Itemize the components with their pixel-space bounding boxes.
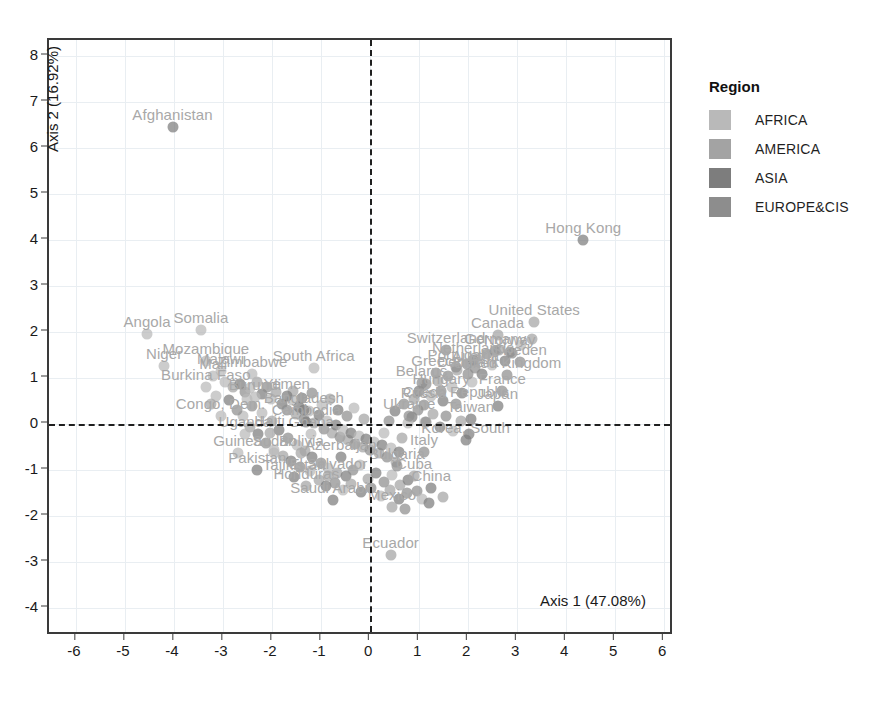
legend-item-label: AMERICA — [755, 141, 820, 157]
legend-items: AFRICAAMERICAASIAEUROPE&CIS — [709, 110, 874, 217]
y-axis-tick: 5 — [30, 184, 38, 201]
scatter-point — [529, 317, 540, 328]
x-tick-label: -1 — [312, 642, 325, 659]
scatter-point — [359, 413, 370, 424]
y-tick-label: 6 — [30, 138, 38, 155]
scatter-point — [378, 427, 389, 438]
scatter-point — [396, 433, 407, 444]
scatter-point — [142, 328, 153, 339]
x-axis-title: Axis 1 (47.08%) — [540, 592, 646, 609]
scatter-point — [167, 122, 178, 133]
point-label: Congo, Dem. — [176, 396, 265, 411]
x-tick-label: -3 — [214, 642, 227, 659]
y-axis-tick: 3 — [30, 276, 38, 293]
x-axis-tick: -4 — [165, 642, 178, 659]
point-label: Azerbaijan — [305, 437, 377, 452]
legend-swatch-icon — [709, 139, 731, 159]
gridline-vertical — [223, 40, 224, 632]
scatter-point — [426, 482, 437, 493]
x-axis-tick: 0 — [364, 642, 372, 659]
x-tick-label: 0 — [364, 642, 372, 659]
x-tick-label: 2 — [462, 642, 470, 659]
x-tick-label: 5 — [609, 642, 617, 659]
scatter-point — [387, 502, 398, 513]
legend-item-america[interactable]: AMERICA — [709, 139, 874, 159]
legend-item-africa[interactable]: AFRICA — [709, 110, 874, 130]
y-tick-label: -1 — [25, 460, 38, 477]
y-tick-label: -4 — [25, 598, 38, 615]
legend-item-label: AFRICA — [755, 112, 808, 128]
y-axis-tick: 1 — [30, 368, 38, 385]
gridline-horizontal — [49, 562, 670, 563]
x-axis-tick: -2 — [263, 642, 276, 659]
scatter-point — [437, 492, 448, 503]
x-axis-tick: -1 — [312, 642, 325, 659]
scatter-point — [385, 550, 396, 561]
point-label: Hong Kong — [545, 220, 621, 235]
point-label: Taiwan — [447, 399, 494, 414]
y-tick-label: 0 — [30, 414, 38, 431]
gridline-vertical — [615, 40, 616, 632]
gridline-horizontal — [49, 56, 670, 57]
x-tick-label: -4 — [165, 642, 178, 659]
x-axis-tick: 5 — [609, 642, 617, 659]
gridline-horizontal — [49, 286, 670, 287]
x-tick-label: -5 — [116, 642, 129, 659]
x-axis-tick: 4 — [560, 642, 568, 659]
y-tick-label: -3 — [25, 552, 38, 569]
y-axis-tick: 8 — [30, 46, 38, 63]
point-label: Somalia — [174, 310, 229, 325]
legend: Region AFRICAAMERICAASIAEUROPE&CIS — [709, 78, 874, 226]
x-tick-label: 4 — [560, 642, 568, 659]
scatter-point — [200, 382, 211, 393]
y-axis-title: Axis 2 (16.92%) — [44, 46, 61, 152]
gridline-horizontal — [49, 378, 670, 379]
scatter-point — [308, 363, 319, 374]
legend-item-europe-cis[interactable]: EUROPE&CIS — [709, 197, 874, 217]
gridline-vertical — [566, 40, 567, 632]
legend-swatch-icon — [709, 197, 731, 217]
scatter-point — [195, 324, 206, 335]
x-tick-label: -6 — [67, 642, 80, 659]
vertical-reference-line — [370, 40, 372, 632]
x-axis-tick: 1 — [413, 642, 421, 659]
x-tick-label: 6 — [658, 642, 666, 659]
legend-item-asia[interactable]: ASIA — [709, 168, 874, 188]
point-label: Canada — [471, 315, 524, 330]
x-axis-tick: 2 — [462, 642, 470, 659]
scatter-point — [423, 498, 434, 509]
legend-item-label: EUROPE&CIS — [755, 199, 849, 215]
y-axis-tick: 7 — [30, 92, 38, 109]
legend-item-label: ASIA — [755, 170, 788, 186]
y-tick-label: 1 — [30, 368, 38, 385]
scatter-point — [404, 411, 415, 422]
point-label: Ukraine — [383, 396, 435, 411]
x-axis-tick: -5 — [116, 642, 129, 659]
point-label: United Kingdom — [453, 355, 561, 370]
x-axis-tick: -6 — [67, 642, 80, 659]
x-tick-label: 3 — [511, 642, 519, 659]
point-label: Angola — [123, 314, 170, 329]
x-axis-tick: 3 — [511, 642, 519, 659]
legend-title: Region — [709, 78, 874, 95]
scatter-point — [328, 495, 339, 506]
scatter-point — [252, 465, 263, 476]
x-axis-tick: 6 — [658, 642, 666, 659]
y-axis-tick: -4 — [25, 598, 38, 615]
y-tick-label: 3 — [30, 276, 38, 293]
scatter-point — [460, 435, 471, 446]
y-axis-tick: -3 — [25, 552, 38, 569]
y-tick-label: 5 — [30, 184, 38, 201]
legend-swatch-icon — [709, 110, 731, 130]
gridline-horizontal — [49, 516, 670, 517]
y-tick-label: 8 — [30, 46, 38, 63]
y-tick-label: 2 — [30, 322, 38, 339]
y-axis-tick: -1 — [25, 460, 38, 477]
point-label: China — [411, 468, 451, 483]
gridline-vertical — [76, 40, 77, 632]
scatter-point — [578, 235, 589, 246]
point-label: Afghanistan — [132, 107, 212, 122]
horizontal-reference-line — [49, 424, 670, 426]
gridline-vertical — [125, 40, 126, 632]
legend-swatch-icon — [709, 168, 731, 188]
